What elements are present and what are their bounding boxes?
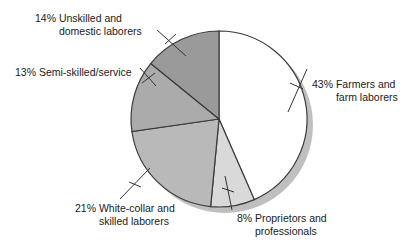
slice-text-proprietors-line2: professionals (255, 225, 327, 238)
slice-text-farmers: Farmers and farm laborers (336, 78, 398, 103)
slice-percent-farmers: 43% (311, 78, 333, 91)
slice-text-semi-skilled-line1: Semi-skilled/service (39, 66, 132, 78)
slice-label-proprietors: 8% Proprietors and professionals (237, 212, 327, 237)
slice-text-unskilled-line2: domestic laborers (59, 25, 142, 38)
slice-text-white-collar-line2: skilled laborers (99, 215, 175, 228)
leader-line-white-collar (120, 168, 150, 199)
pie-slice-white-collar[interactable] (132, 119, 219, 207)
leader-tick-white-collar (129, 182, 141, 187)
slice-label-semi-skilled: 13% Semi-skilled/service (14, 66, 132, 79)
slice-label-unskilled: 14% Unskilled and domestic laborers (34, 12, 142, 37)
slice-text-proprietors: Proprietors and professionals (255, 212, 327, 237)
slice-text-white-collar: White-collar and skilled laborers (99, 202, 175, 227)
slice-text-unskilled-line1: Unskilled and (59, 12, 122, 24)
slice-text-proprietors-line1: Proprietors and (255, 212, 327, 224)
slice-percent-unskilled: 14% (34, 12, 56, 25)
slice-percent-proprietors: 8% (237, 212, 252, 225)
slice-text-farmers-line2: farm laborers (336, 91, 398, 104)
pie-chart-canvas (0, 0, 412, 249)
slice-label-white-collar: 21% White-collar and skilled laborers (74, 202, 175, 227)
slice-text-white-collar-line1: White-collar and (99, 202, 175, 214)
slice-text-semi-skilled: Semi-skilled/service (39, 66, 132, 79)
slice-text-farmers-line1: Farmers and (336, 78, 396, 90)
pie-chart-figure: 14% Unskilled and domestic laborers 13% … (0, 0, 412, 249)
slice-text-unskilled: Unskilled and domestic laborers (59, 12, 142, 37)
slice-percent-white-collar: 21% (74, 202, 96, 215)
slice-percent-semi-skilled: 13% (14, 66, 36, 79)
slice-label-farmers: 43% Farmers and farm laborers (311, 78, 398, 103)
